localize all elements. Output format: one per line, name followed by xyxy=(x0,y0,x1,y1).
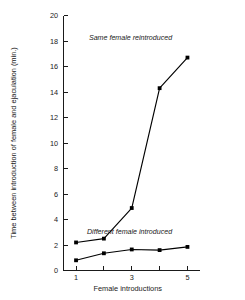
data-point-marker xyxy=(74,241,78,245)
x-tick-label: 5 xyxy=(185,273,189,282)
y-tick-label: 12 xyxy=(50,113,58,122)
x-axis-tick-labels: 135 xyxy=(74,273,189,282)
y-tick-label: 4 xyxy=(54,215,58,224)
data-point-marker xyxy=(74,258,78,262)
y-tick-label: 18 xyxy=(50,37,58,46)
x-tick-label: 3 xyxy=(130,273,134,282)
y-tick-label: 20 xyxy=(50,11,58,20)
line-chart: 02468101214161820 135 Female introductio… xyxy=(0,0,245,300)
x-tick-label: 1 xyxy=(74,273,78,282)
data-point-marker xyxy=(186,56,190,60)
series-annotation-upper: Same female reintroduced xyxy=(89,34,173,42)
data-point-marker xyxy=(102,237,106,241)
y-tick-label: 6 xyxy=(54,190,58,199)
x-axis-title: Female introductions xyxy=(93,284,162,293)
y-tick-label: 8 xyxy=(54,164,58,173)
chart-figure: 02468101214161820 135 Female introductio… xyxy=(0,0,245,300)
data-point-marker xyxy=(158,86,162,90)
y-axis-tick-labels: 02468101214161820 xyxy=(50,11,58,275)
data-point-marker xyxy=(130,206,134,210)
y-tick-label: 0 xyxy=(54,266,58,275)
y-axis-ticks xyxy=(64,16,68,271)
data-point-marker xyxy=(130,248,134,252)
data-point-marker xyxy=(158,248,162,252)
series-line-1 xyxy=(76,58,187,243)
y-axis-title: Time between introduction of female and … xyxy=(9,47,18,239)
x-axis-ticks xyxy=(76,266,187,271)
series-annotation-lower: Different female introduced xyxy=(87,228,173,236)
y-tick-label: 16 xyxy=(50,62,58,71)
y-tick-label: 2 xyxy=(54,241,58,250)
y-tick-label: 14 xyxy=(50,88,58,97)
data-point-marker xyxy=(102,251,106,255)
y-tick-label: 10 xyxy=(50,139,58,148)
data-point-marker xyxy=(186,245,190,249)
